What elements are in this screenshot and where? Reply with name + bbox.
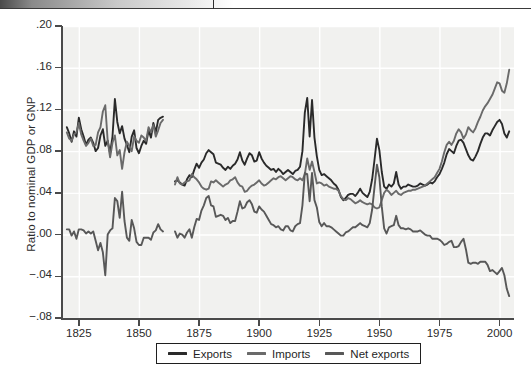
legend-swatch-icon — [168, 352, 187, 355]
x-tick-mark — [439, 319, 441, 326]
x-tick-label: 1975 — [410, 327, 470, 339]
y-tick-mark — [55, 234, 62, 236]
x-tick-label: 2000 — [470, 327, 530, 339]
x-tick-label: 1950 — [349, 327, 409, 339]
legend-label: Imports — [272, 348, 310, 360]
x-tick-label: 1825 — [49, 327, 109, 339]
x-axis-line — [61, 318, 514, 320]
y-tick-label: .08 — [0, 143, 52, 155]
x-tick-label: 1875 — [169, 327, 229, 339]
legend-entry-exports[interactable]: Exports — [168, 348, 232, 360]
legend-label: Exports — [193, 348, 232, 360]
x-tick-mark — [379, 319, 381, 326]
y-tick-label: .00 — [0, 227, 52, 239]
y-tick-mark — [55, 67, 62, 69]
legend-swatch-icon — [247, 352, 266, 355]
y-axis-title: Ratio to nominal GDP or GNP — [25, 49, 37, 299]
x-tick-mark — [138, 319, 140, 326]
y-tick-mark — [55, 276, 62, 278]
y-tick-mark — [55, 25, 62, 27]
x-tick-label: 1850 — [109, 327, 169, 339]
x-tick-mark — [258, 319, 260, 326]
legend-label: Net exports — [350, 348, 409, 360]
y-tick-mark — [55, 150, 62, 152]
y-tick-mark — [55, 192, 62, 194]
x-tick-label: 1925 — [289, 327, 349, 339]
series-lines — [62, 26, 514, 318]
y-tick-label: .12 — [0, 101, 52, 113]
y-tick-mark — [55, 109, 62, 111]
legend-entry-imports[interactable]: Imports — [247, 348, 310, 360]
y-tick-label: −.08 — [0, 310, 52, 322]
chart-legend: ExportsImportsNet exports — [156, 343, 421, 364]
legend-entry-net-exports[interactable]: Net exports — [325, 348, 409, 360]
y-tick-label: .20 — [0, 18, 52, 30]
y-tick-label: −.04 — [0, 268, 52, 280]
x-tick-mark — [78, 319, 80, 326]
chart-figure: Ratio to nominal GDP or GNP .20.16.12.08… — [0, 0, 531, 385]
y-tick-mark — [55, 317, 62, 319]
plot-area — [62, 26, 514, 318]
x-tick-mark — [499, 319, 501, 326]
legend-swatch-icon — [325, 352, 344, 355]
x-tick-mark — [198, 319, 200, 326]
y-tick-label: .16 — [0, 60, 52, 72]
x-tick-label: 1900 — [229, 327, 289, 339]
y-tick-label: .04 — [0, 185, 52, 197]
x-tick-mark — [319, 319, 321, 326]
